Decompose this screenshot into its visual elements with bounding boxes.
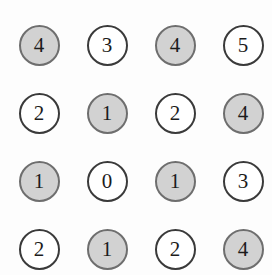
grid-cell[interactable]: 3 <box>209 147 272 215</box>
node-label: 0 <box>102 170 113 191</box>
grid-cell[interactable]: 3 <box>73 11 141 79</box>
grid-row: 4 3 4 5 <box>0 11 272 79</box>
node-circle[interactable]: 3 <box>223 161 264 202</box>
node-circle[interactable]: 1 <box>19 161 60 202</box>
grid-row: 2 1 2 4 <box>0 215 272 275</box>
grid-cell[interactable]: 2 <box>5 79 73 147</box>
circle-grid-figure: 4 3 4 5 2 <box>0 0 272 275</box>
node-circle[interactable]: 4 <box>223 93 264 134</box>
grid-cell[interactable]: 2 <box>141 79 209 147</box>
grid-cell[interactable]: 1 <box>141 147 209 215</box>
grid-cell[interactable]: 1 <box>5 147 73 215</box>
node-circle[interactable]: 2 <box>155 229 196 270</box>
node-circle[interactable]: 1 <box>87 93 128 134</box>
node-circle[interactable]: 4 <box>223 229 264 270</box>
node-circle[interactable]: 0 <box>87 161 128 202</box>
grid-cell[interactable]: 5 <box>209 11 272 79</box>
node-circle[interactable]: 1 <box>87 229 128 270</box>
grid-cell[interactable]: 4 <box>209 79 272 147</box>
node-label: 4 <box>238 102 249 123</box>
grid-cell[interactable]: 1 <box>73 215 141 275</box>
node-circle[interactable]: 2 <box>19 229 60 270</box>
node-label: 2 <box>170 102 181 123</box>
grid-cell[interactable]: 0 <box>73 147 141 215</box>
node-label: 1 <box>170 170 181 191</box>
grid-cell[interactable]: 1 <box>73 79 141 147</box>
grid-row: 2 1 2 4 <box>0 79 272 147</box>
grid-cell[interactable]: 4 <box>5 11 73 79</box>
node-label: 4 <box>34 34 45 55</box>
node-circle[interactable]: 5 <box>223 25 264 66</box>
node-label: 3 <box>238 170 249 191</box>
node-circle[interactable]: 4 <box>155 25 196 66</box>
node-circle[interactable]: 2 <box>19 93 60 134</box>
node-label: 4 <box>170 34 181 55</box>
node-label: 3 <box>102 34 113 55</box>
node-label: 4 <box>238 238 249 259</box>
grid-cell[interactable]: 2 <box>5 215 73 275</box>
grid-row: 1 0 1 3 <box>0 147 272 215</box>
node-label: 2 <box>34 238 45 259</box>
node-circle[interactable]: 1 <box>155 161 196 202</box>
node-circle[interactable]: 4 <box>19 25 60 66</box>
node-label: 5 <box>238 34 249 55</box>
node-label: 1 <box>102 102 113 123</box>
node-circle[interactable]: 2 <box>155 93 196 134</box>
node-label: 2 <box>34 102 45 123</box>
node-label: 1 <box>102 238 113 259</box>
grid-cell[interactable]: 2 <box>141 215 209 275</box>
node-circle[interactable]: 3 <box>87 25 128 66</box>
circle-grid: 4 3 4 5 2 <box>0 0 272 275</box>
grid-cell[interactable]: 4 <box>209 215 272 275</box>
node-label: 2 <box>170 238 181 259</box>
grid-cell[interactable]: 4 <box>141 11 209 79</box>
node-label: 1 <box>34 170 45 191</box>
